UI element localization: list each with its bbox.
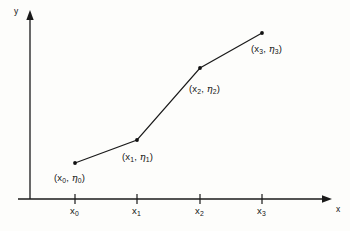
plot-canvas bbox=[0, 0, 350, 231]
point-label-1: (x1, η1) bbox=[122, 152, 153, 162]
point-label-0-close: ) bbox=[82, 172, 85, 183]
tick-label-x1-sub: 1 bbox=[137, 210, 141, 217]
point-label-2-x-sub: 2 bbox=[197, 88, 201, 95]
tick-label-x1: x1 bbox=[132, 206, 141, 216]
point-label-1-close: ) bbox=[150, 151, 153, 162]
point-label-1-eta: η bbox=[140, 151, 146, 162]
point-label-2-eta: η bbox=[207, 83, 213, 94]
y-axis-arrowhead-icon bbox=[26, 10, 33, 20]
point-label-3-eta-sub: 3 bbox=[275, 48, 279, 55]
tick-label-x3: x3 bbox=[257, 206, 266, 216]
data-polyline bbox=[75, 33, 262, 163]
point-label-1-x-sub: 1 bbox=[130, 156, 134, 163]
tick-label-x2-sub: 2 bbox=[200, 210, 204, 217]
point-label-1-eta-sub: 1 bbox=[146, 156, 150, 163]
point-label-3-eta: η bbox=[269, 43, 275, 54]
tick-label-x0-sub: 0 bbox=[75, 210, 79, 217]
point-label-2: (x2, η2) bbox=[189, 84, 220, 94]
point-label-2-eta-sub: 2 bbox=[213, 88, 217, 95]
x-axis-group bbox=[18, 195, 332, 202]
point-label-0-eta-sub: 0 bbox=[78, 177, 82, 184]
point-label-2-close: ) bbox=[217, 83, 220, 94]
tick-label-x0: x0 bbox=[70, 206, 79, 216]
y-axis-label: y bbox=[14, 7, 18, 16]
data-point-3 bbox=[260, 31, 264, 35]
point-label-0-x-sub: 0 bbox=[62, 177, 66, 184]
data-point-0 bbox=[73, 161, 77, 165]
point-label-3-close: ) bbox=[279, 43, 282, 54]
data-point-1 bbox=[135, 138, 139, 142]
point-label-0-eta: η bbox=[72, 172, 78, 183]
point-label-3: (x3, η3) bbox=[251, 44, 282, 54]
data-point-markers bbox=[73, 31, 264, 165]
x-axis-label: x bbox=[336, 205, 340, 214]
x-axis-arrowhead-icon bbox=[322, 195, 332, 202]
figure-container: y x x0 x1 x2 x3 (x0, η0) (x1, η1) (x2, η… bbox=[0, 0, 350, 231]
point-label-3-x-sub: 3 bbox=[259, 48, 263, 55]
tick-label-x2: x2 bbox=[195, 206, 204, 216]
data-point-2 bbox=[198, 66, 202, 70]
point-label-0: (x0, η0) bbox=[54, 173, 85, 183]
tick-label-x3-sub: 3 bbox=[262, 210, 266, 217]
y-axis-group bbox=[26, 10, 33, 199]
